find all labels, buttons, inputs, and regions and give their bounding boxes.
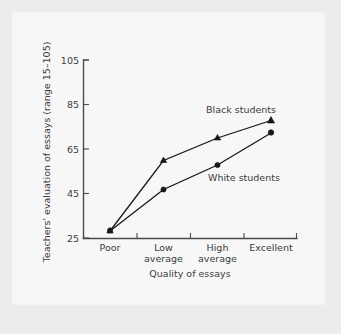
marker-white-poor — [107, 228, 112, 233]
x-label-low-average-line1: Low — [154, 242, 173, 253]
y-tick-label-25: 25 — [67, 233, 79, 244]
y-axis-ticks — [84, 60, 90, 238]
marker-white-high-average — [215, 162, 220, 167]
x-axis-category-labels: Poor Low average High average Excellent — [100, 242, 293, 264]
x-axis-title: Quality of essays — [149, 268, 230, 279]
y-axis-tick-labels: 105 85 65 45 25 — [61, 55, 79, 244]
y-tick-label-45: 45 — [67, 188, 79, 199]
x-label-high-average-line2: average — [198, 253, 237, 264]
x-label-high-average-line1: High — [207, 242, 229, 253]
x-label-low-average-line2: average — [144, 253, 183, 264]
chart-screenshot: 105 85 65 45 25 Poor Low average High av… — [0, 0, 341, 334]
series-label-black-students: Black students — [206, 104, 276, 115]
marker-black-excellent — [267, 117, 274, 124]
y-tick-label-65: 65 — [67, 144, 79, 155]
series-label-white-students: White students — [208, 172, 280, 183]
marker-white-excellent — [268, 130, 274, 136]
line-chart-figure: 105 85 65 45 25 Poor Low average High av… — [0, 0, 341, 334]
y-tick-label-85: 85 — [67, 99, 79, 110]
x-label-poor: Poor — [100, 242, 121, 253]
x-axis-ticks — [137, 233, 244, 239]
y-tick-label-105: 105 — [61, 55, 79, 66]
y-axis-title: Teachers' evaluation of essays (range 15… — [41, 42, 52, 264]
marker-white-low-average — [161, 187, 166, 192]
x-label-excellent: Excellent — [249, 242, 293, 253]
